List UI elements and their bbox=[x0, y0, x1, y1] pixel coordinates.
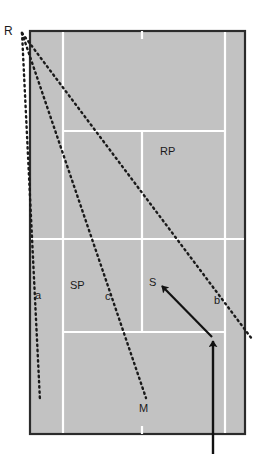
label-m: M bbox=[139, 402, 148, 414]
label-b: b bbox=[214, 294, 220, 306]
label-a: a bbox=[35, 289, 42, 301]
court-diagram-canvas: R a SP c b S RP M bbox=[0, 0, 267, 454]
label-rp: RP bbox=[160, 145, 175, 157]
tennis-court-diagram: R a SP c b S RP M bbox=[0, 0, 267, 454]
label-r: R bbox=[4, 24, 13, 38]
label-s: S bbox=[149, 276, 156, 288]
label-c: c bbox=[105, 290, 111, 302]
label-sp: SP bbox=[70, 279, 85, 291]
